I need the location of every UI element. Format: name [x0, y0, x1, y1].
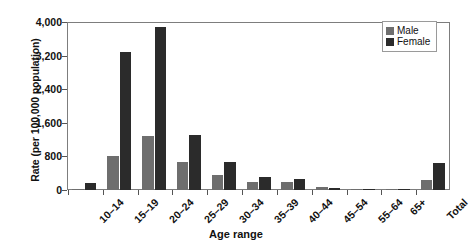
- bar-male-Total[interactable]: [421, 180, 433, 190]
- x-axis-ticklabel: 20–24: [167, 196, 196, 225]
- x-axis-tickmark: [103, 190, 104, 195]
- y-axis-tickmark: [62, 156, 67, 157]
- x-axis-tickmark: [68, 190, 69, 195]
- x-axis-tickmark: [242, 190, 243, 195]
- x-axis-title: Age range: [0, 228, 472, 240]
- x-axis-ticklabel: 15–19: [132, 196, 161, 225]
- x-axis-ticklabel: 65+: [407, 196, 428, 217]
- x-axis-tickmark: [381, 190, 382, 195]
- x-axis-ticklabel: 45–54: [341, 196, 370, 225]
- legend-item-female[interactable]: Female: [386, 37, 430, 47]
- legend-swatch-female-icon: [386, 38, 394, 46]
- x-axis-tickmark: [172, 190, 173, 195]
- y-axis-tickmark: [62, 56, 67, 57]
- x-axis-ticklabel: 10–14: [97, 196, 126, 225]
- x-axis-ticklabel: 35–39: [271, 196, 300, 225]
- legend-swatch-male-icon: [386, 27, 394, 35]
- x-axis-tickmark: [416, 190, 417, 195]
- y-axis-ticklabel: 4,000: [20, 16, 62, 28]
- x-axis-ticklabel: Total: [444, 196, 470, 222]
- y-axis-tickmark: [62, 123, 67, 124]
- x-axis-ticklabel: 55–64: [376, 196, 405, 225]
- y-axis-ticklabels: 08001,6002,4003,2004,000: [20, 0, 62, 249]
- x-axis-ticklabel: 25–29: [201, 196, 230, 225]
- y-axis-ticklabel: 1,600: [20, 117, 62, 129]
- legend-label-male: Male: [397, 26, 419, 36]
- x-axis-tickmark: [207, 190, 208, 195]
- legend-item-male[interactable]: Male: [386, 26, 430, 36]
- y-axis-tickmark: [62, 190, 67, 191]
- x-axis-ticklabel: 30–34: [236, 196, 265, 225]
- x-axis-tickmark: [312, 190, 313, 195]
- y-axis-ticklabel: 800: [20, 150, 62, 162]
- y-axis-tickmark: [62, 22, 67, 23]
- y-axis-ticklabel: 2,400: [20, 83, 62, 95]
- legend: Male Female: [382, 21, 437, 52]
- y-axis-tickmark: [62, 89, 67, 90]
- x-axis-tickmark: [347, 190, 348, 195]
- y-axis-ticklabel: 3,200: [20, 50, 62, 62]
- bar-female-Total[interactable]: [433, 163, 445, 191]
- x-axis-tickmark: [138, 190, 139, 195]
- legend-label-female: Female: [397, 37, 430, 47]
- y-axis-ticklabel: 0: [20, 184, 62, 196]
- x-axis-tickmark: [277, 190, 278, 195]
- x-axis-ticklabel: 40–44: [306, 196, 335, 225]
- bar-chart: Rate (per 100,000 population) 08001,6002…: [0, 0, 472, 249]
